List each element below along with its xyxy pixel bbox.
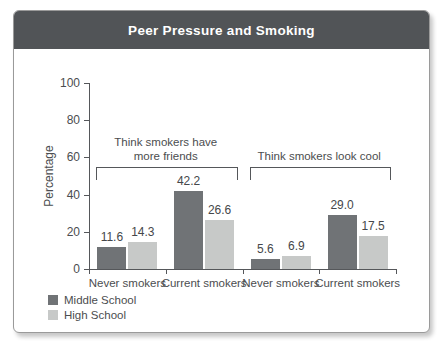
x-tick [243,269,244,274]
y-tick-label: 100 [48,77,80,89]
y-axis-title: Percentage [42,111,56,241]
middle-school-bar [251,259,280,269]
annotation-text: Think smokers look cool [250,149,390,163]
y-tick [84,232,89,233]
bar-value-label: 14.3 [121,226,165,239]
legend-label: High School [64,309,126,321]
chart-card: Peer Pressure and Smoking 020406080100Pe… [13,10,430,333]
high-school-bar [205,220,234,269]
legend-item-middle-school: Middle School [48,293,136,307]
legend-label: Middle School [64,294,136,306]
category-label: Current smokers [308,277,408,289]
annotation-bracket [96,167,238,180]
high-school-bar [128,242,157,269]
x-tick [166,269,167,274]
y-tick [84,195,89,196]
high-school-swatch [48,310,58,320]
y-tick-label: 0 [48,263,80,275]
middle-school-swatch [48,295,58,305]
x-tick [319,269,320,274]
high-school-bar [359,236,388,269]
x-tick [89,269,90,274]
bar-value-label: 6.9 [274,240,318,253]
bar-value-label: 17.5 [351,220,395,233]
y-tick [84,83,89,84]
bar-value-label: 29.0 [320,199,364,212]
bar-value-label: 26.6 [198,204,242,217]
middle-school-bar [97,247,126,269]
legend: Middle School High School [48,293,136,323]
y-tick [84,120,89,121]
x-tick [396,269,397,274]
high-school-bar [282,256,311,269]
legend-item-high-school: High School [48,308,136,322]
annotation-bracket [250,167,392,180]
y-tick [84,157,89,158]
annotation-text: Think smokers havemore friends [96,135,236,163]
chart-canvas: 020406080100Percentage11.614.3Never smok… [14,11,429,332]
middle-school-bar [174,191,203,269]
